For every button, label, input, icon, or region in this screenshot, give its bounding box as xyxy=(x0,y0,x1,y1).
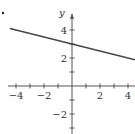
x-tick-label: 4 xyxy=(125,90,131,101)
y-tick-label: 4 xyxy=(61,25,67,36)
x-tick-label: −2 xyxy=(37,90,52,101)
y-tick-label: 2 xyxy=(61,53,67,64)
x-tick-label: −4 xyxy=(9,90,24,101)
problem-marker-dot xyxy=(2,12,4,14)
axes xyxy=(8,13,135,134)
y-axis-arrow-icon xyxy=(70,13,74,19)
y-tick-label: −2 xyxy=(52,109,67,120)
x-tick-label: 2 xyxy=(97,90,103,101)
y-axis-label: y xyxy=(58,7,65,18)
line-chart: −4−22442−2 y xyxy=(0,0,135,134)
